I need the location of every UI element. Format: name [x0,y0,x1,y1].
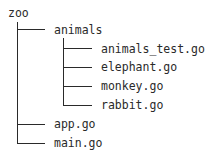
tree-connector-horizontal [63,48,92,49]
tree-node-rabbit-go: rabbit.go [101,98,163,112]
tree-connector-vertical [17,22,18,144]
tree-node-main-go: main.go [54,136,102,150]
tree-node-app-go: app.go [54,117,96,131]
tree-node-monkey-go: monkey.go [101,79,163,93]
tree-connector-horizontal [17,124,45,125]
tree-connector-horizontal [17,143,45,144]
tree-node-animals-test-go: animals_test.go [101,42,205,56]
tree-connector-horizontal [63,86,92,87]
tree-node-elephant-go: elephant.go [101,60,177,74]
tree-root-zoo: zoo [8,6,29,20]
tree-connector-horizontal [17,29,45,30]
tree-connector-horizontal [63,105,92,106]
tree-node-animals: animals [54,23,102,37]
tree-connector-horizontal [63,67,92,68]
